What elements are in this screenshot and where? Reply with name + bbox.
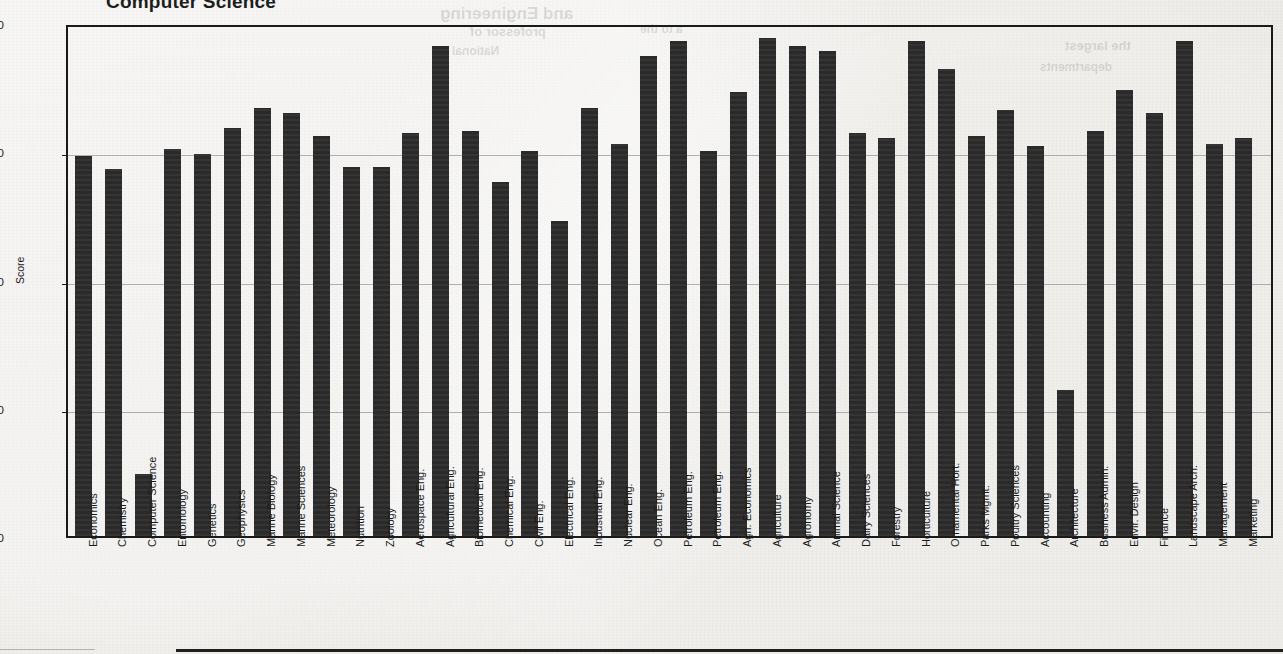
bar <box>194 154 211 536</box>
y-axis-tick: 3.50 <box>0 404 4 416</box>
bar <box>789 46 806 536</box>
y-axis-tick: 3.00 <box>0 532 4 544</box>
x-axis-tick: Ocean Eng. <box>652 489 664 547</box>
bar <box>164 149 181 536</box>
bar <box>611 144 628 536</box>
bar <box>224 128 241 536</box>
x-axis-tick: Marketing <box>1247 499 1259 547</box>
bar <box>373 167 390 536</box>
x-axis-tick: Aerospace Eng. <box>414 469 426 547</box>
bar <box>75 156 92 536</box>
x-axis-tick: Marine Sciences <box>295 466 307 547</box>
showthrough-text: and Engineering <box>440 4 573 24</box>
x-axis-tick: Petroleum Eng. <box>682 471 694 547</box>
x-axis-tick: Entomology <box>176 489 188 547</box>
bar <box>968 136 985 536</box>
y-axis-tick: 5.00 <box>0 19 4 31</box>
y-tick-mark <box>62 284 68 285</box>
x-axis-tick: Nutrition <box>354 506 366 547</box>
x-axis-tick: Marine Biology <box>265 474 277 547</box>
bar <box>521 151 538 536</box>
x-axis-tick: Animal Science <box>830 471 842 547</box>
bar <box>1146 113 1163 536</box>
bar <box>640 56 657 536</box>
x-axis-tick: Landscape Arch. <box>1187 465 1199 547</box>
x-axis-tick: Computer Science <box>146 457 158 548</box>
x-axis-tick: Petroleum Eng. <box>711 471 723 547</box>
x-axis-tick: Meteorology <box>325 486 337 547</box>
x-axis-tick: Management <box>1217 483 1229 547</box>
bar <box>313 136 330 536</box>
chart-title: Computer Science <box>106 0 276 13</box>
bar <box>908 41 925 536</box>
x-axis-tick: Zoology <box>384 508 396 547</box>
x-axis-tick: Agricultural Eng. <box>444 466 456 547</box>
x-axis-tick: Agriculture <box>771 494 783 547</box>
bar <box>1176 41 1193 536</box>
bar <box>254 108 271 536</box>
x-axis-tick: Nuclear Eng. <box>622 483 634 547</box>
bar <box>1235 138 1252 536</box>
x-axis-tick: Parks Mgmt. <box>979 485 991 547</box>
x-axis-tick: Electrical Eng. <box>563 477 575 547</box>
bar <box>670 41 687 536</box>
x-axis-tick: Finance <box>1158 508 1170 547</box>
x-axis-tick: Agronomy <box>801 497 813 547</box>
x-axis-tick: Biomedical Eng. <box>473 468 485 548</box>
x-axis-tick: Chemistry <box>116 497 128 547</box>
x-axis-tick: Business Admin. <box>1098 466 1110 547</box>
y-tick-mark <box>62 155 68 156</box>
x-axis-tick: Accounting <box>1039 493 1051 547</box>
bar <box>1027 146 1044 536</box>
x-axis-tick: Ornamental Hort. <box>949 463 961 547</box>
y-axis-label: Score <box>14 257 26 284</box>
bar <box>759 38 776 536</box>
x-axis-tick: Agri. Economics <box>741 468 753 547</box>
y-tick-mark <box>62 412 68 413</box>
x-axis-tick: Architecture <box>1068 488 1080 547</box>
bar <box>581 108 598 536</box>
x-axis-tick: Forestry <box>890 507 902 547</box>
x-axis-tick: Envir. Design <box>1128 482 1140 547</box>
x-axis-tick: Civil Eng. <box>533 501 545 547</box>
page-footer-rule-left <box>0 649 95 650</box>
bar <box>1206 144 1223 536</box>
bar <box>878 138 895 536</box>
bar <box>819 51 836 536</box>
page-footer-rule <box>176 649 1283 652</box>
x-axis-tick: Geophysics <box>235 490 247 547</box>
x-axis-tick: Chemical Eng. <box>503 475 515 547</box>
bar <box>105 169 122 536</box>
x-axis-tick: Economics <box>87 493 99 547</box>
x-axis-tick: Horticulture <box>920 491 932 547</box>
x-axis-tick: Genetics <box>206 504 218 547</box>
bar <box>432 46 449 536</box>
bar <box>343 167 360 536</box>
y-axis-tick: 4.00 <box>0 276 4 288</box>
y-axis-tick: 4.50 <box>0 147 4 159</box>
x-axis-tick: Dairy Sciences <box>860 474 872 547</box>
x-axis-tick: Poultry Sciences <box>1009 465 1021 547</box>
bar <box>1116 90 1133 536</box>
plot-area <box>66 25 1273 538</box>
x-axis-tick: Industrial Eng. <box>592 477 604 547</box>
